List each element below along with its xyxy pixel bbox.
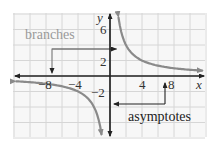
x-axis-label: x <box>195 77 202 92</box>
branches-label: branches <box>25 27 75 42</box>
y-axis-label: y <box>95 10 103 25</box>
asymptotes-label: asymptotes <box>128 109 191 124</box>
hyperbola-chart: branches asymptotes −8 −4 4 8 6 2 −2 y x <box>0 0 213 149</box>
y-tick-label: 2 <box>100 54 107 69</box>
x-tick-label: −4 <box>68 77 82 92</box>
x-tick-label: −8 <box>38 77 52 92</box>
y-tick-label: −2 <box>91 85 105 100</box>
x-tick-label: 4 <box>139 77 146 92</box>
x-tick-label: 8 <box>168 77 175 92</box>
